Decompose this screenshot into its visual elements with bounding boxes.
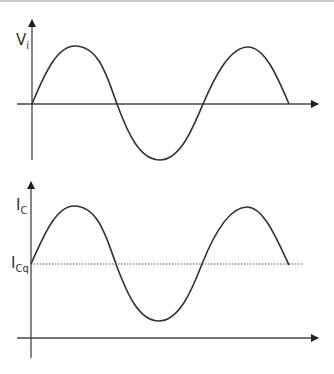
top-sine-wave — [32, 46, 289, 160]
waveform-diagram: Vi IC ICq — [0, 0, 334, 374]
vi-label: Vi — [16, 31, 29, 51]
bottom-plot: IC ICq — [11, 182, 318, 358]
ic-label: IC — [16, 196, 27, 216]
icq-label: ICq — [11, 254, 29, 274]
top-plot: Vi — [16, 20, 318, 160]
